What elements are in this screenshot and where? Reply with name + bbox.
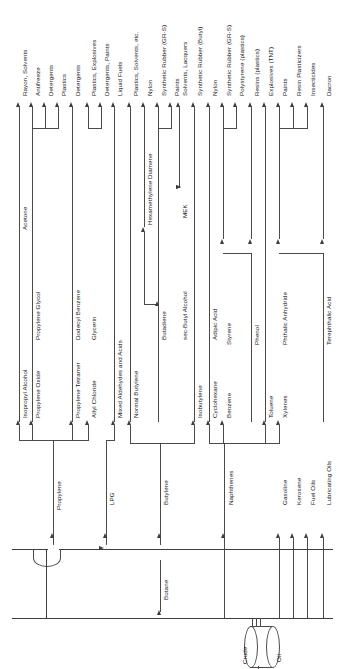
flow-line [88,425,89,440]
arrowhead-icon [99,546,104,550]
product-label: Synthetic Rubber (Butyl) [197,27,203,96]
flow-line [171,106,172,128]
product-label: Nylon [212,80,218,96]
arrowhead-icon [50,533,54,538]
product-label: Insecticides [310,62,316,96]
flow-line [72,106,73,422]
arrowhead-icon [176,185,181,189]
flow-bus [223,253,252,254]
flow-line [251,106,252,239]
product-label: Synthetic Rubber (GR-S) [161,25,167,96]
drum-nozzle [256,618,257,627]
flow-line [279,425,280,443]
arrowhead-icon [220,239,224,244]
feed-label: LPG [109,492,115,505]
drum-nozzle [252,618,253,627]
flow-line [194,425,195,443]
flow-line [209,425,210,443]
flow-bus [158,128,172,129]
flow-bus [88,128,102,129]
product-label: Dacron [326,75,332,96]
flow-line [236,106,237,128]
intermediate-label: Butadiene [161,311,167,340]
flow-line [72,425,73,440]
arrowhead-icon [276,239,280,244]
flow-bus [209,443,280,444]
intermediate-label: Xylenes [282,395,288,418]
intermediate-label: Glycerin [91,317,97,341]
product-label: Plastics, Solvents, etc. [133,32,139,96]
product-label: Detergents, Paints [104,43,110,96]
flow-bus [130,443,195,444]
flow-bus [279,253,324,254]
flow-line [265,425,266,443]
crude-header-line [12,618,333,619]
product-label: Polystyrene (plastics) [239,35,245,96]
flow-line [101,106,102,128]
flow-line [114,425,115,440]
flow-line [106,440,107,545]
intermediate-label: Propylene Glycol [35,292,41,340]
oil-label: Oil [276,654,282,662]
flow-bus [32,128,59,129]
intermediate-label: Styrene [226,323,232,345]
drum-nozzle [260,618,261,627]
intermediate-label: Propylene Oxide [35,371,41,418]
flow-line [223,106,224,128]
flow-line [293,106,294,128]
product-label: Liquid Fuels [117,61,123,96]
feed-label: Kerosene [296,478,302,505]
flow-line [251,253,252,422]
arrowhead-icon [155,301,159,306]
flow-line [158,106,159,128]
intermediate-label: Terephthalic Acid [326,297,332,345]
flow-line [53,440,54,545]
intermediate-label: Phenol [254,325,260,345]
product-label: Antifreeze [35,67,41,96]
flow-line [160,560,161,612]
intermediate-label: Mixed Aldehydes and Acids [117,340,123,418]
flow-line [209,106,210,422]
product-label: Paints [174,78,180,96]
flow-line [114,106,115,422]
flow-line [130,106,131,422]
flow-line [45,106,46,128]
arrowhead-icon [103,533,107,538]
flow-line [144,106,145,227]
intermediate-label: Phthalic Anhydride [282,292,288,345]
product-label: Paints [282,78,288,96]
flow-line [19,106,20,422]
crude-label: Crude [242,647,248,664]
product-label: Rayon, Solvents [22,49,28,96]
intermediate-label: Propylene Tetramer [75,362,81,418]
flow-bus [106,440,115,441]
petrochemical-flow-diagram: Rayon, Solvents Antifreeze Detergents Pl… [0,0,356,669]
intermediate-label: Isopropyl Alcohol [22,370,28,418]
flow-line [265,106,266,422]
flow-line [144,232,145,304]
product-label: Resin Plasticizers [296,45,302,96]
intermediate-label: Isobutylene [197,385,203,418]
flow-line [58,106,59,128]
intermediate-label: Allyl Chloride [91,380,97,418]
feed-label: Propylene [56,481,62,510]
product-label: Detergents [48,65,54,96]
intermediate-label: Benzene [226,393,232,418]
flow-line [88,106,89,128]
arrowhead-icon [320,239,324,244]
product-label: Plastics [61,74,67,96]
flow-line [224,443,225,618]
flow-line [279,106,280,128]
flow-line [32,425,33,440]
flow-line [194,106,195,422]
arrowhead-icon [157,533,161,538]
feed-label: Gasoline [282,480,288,505]
flow-line [179,106,180,188]
flow-line [130,425,131,443]
flow-line [19,425,20,440]
product-label: Solvents, Lacquers [182,42,188,96]
intermediate-label: Adipic Acid [212,309,218,340]
feed-label: Lubricating Oils [326,461,332,505]
intermediate-label: Cyclohexane [212,381,218,418]
product-label: Explosives (TNT) [268,47,274,96]
